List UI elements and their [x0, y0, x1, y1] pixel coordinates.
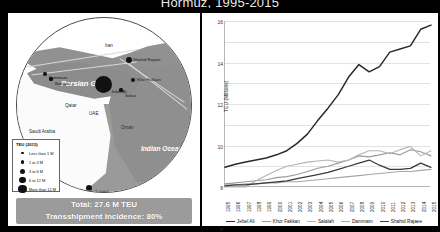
x-axis-tick-label: 2012 [401, 202, 406, 212]
y-axis-tick-label: 8 [220, 185, 223, 191]
x-axis-tick-label: 1999 [267, 202, 272, 212]
chart-legend-item-label: Jebel Ali [237, 219, 255, 224]
y-axis-label: TEU (Millions) [223, 81, 229, 112]
map-legend-item-label: 6 to 12 M [29, 178, 45, 183]
map-legend-title: TEU (2015) [16, 142, 56, 147]
x-axis-tick-label: 2011 [391, 202, 396, 212]
country-label: Iran [105, 44, 113, 49]
x-axis-tick-label: 2006 [339, 202, 344, 212]
map-legend-item: 6 to 12 M [16, 176, 56, 185]
x-axis-tick-label: 2004 [319, 202, 324, 212]
slide-root: Hormuz, 1995-2015 Persian GulfIndian Oce… [0, 0, 440, 231]
chart-legend-item: Jebel Ali [226, 219, 255, 224]
chart-panel: 246810121416 TEU (Millions) 199519961997… [202, 13, 438, 226]
x-axis-tick-label: 1996 [236, 202, 241, 212]
x-axis-tick-label: 2009 [370, 202, 375, 212]
slide-title: Hormuz, 1995-2015 [0, 0, 440, 8]
port-label: Sohar [125, 94, 136, 98]
port-label: Shahid Rajaee [133, 58, 160, 62]
country-label: Qatar [65, 104, 77, 109]
map-legend-item-label: 3 to 6 M [29, 169, 43, 174]
x-axis-tick-label: 1998 [257, 202, 262, 212]
y-axis-tick-label: 6 [220, 227, 223, 232]
x-axis-tick-label: 2015 [432, 202, 437, 212]
chart-legend-item: Khor Fakkan [262, 219, 300, 224]
legend-circle-icon [16, 169, 29, 174]
series-line [225, 169, 431, 185]
chart-legend-item: Salalah [307, 219, 334, 224]
map-legend-item: More than 12 M [16, 185, 56, 194]
x-axis-tick-label: 2013 [411, 202, 416, 212]
x-axis-tick-label: 1995 [226, 202, 231, 212]
map-legend: TEU (2015) Less than 1 M1 to 3 M3 to 6 M… [12, 139, 60, 192]
series-line [225, 160, 431, 186]
x-axis-tick-label: 2007 [350, 202, 355, 212]
legend-line-swatch [380, 221, 389, 222]
chart-legend-item-label: Dammam [352, 219, 373, 224]
port-label: Salalah [95, 190, 109, 193]
port-label: Khor Fakkan [137, 78, 161, 82]
port-marker [119, 88, 122, 91]
map-legend-item: 3 to 6 M [16, 167, 56, 176]
port-marker [95, 76, 112, 93]
port-marker [49, 77, 52, 80]
port-marker [126, 57, 132, 63]
country-label: UAE [89, 112, 98, 117]
chart-legend-item-label: Salalah [318, 219, 334, 224]
port-label: Bahrain [55, 82, 69, 86]
series-line [225, 25, 431, 167]
chart-legend-item: Dammam [341, 219, 373, 224]
country-label: Oman [121, 126, 134, 131]
legend-line-swatch [262, 221, 271, 222]
x-axis-tick-label: 1997 [247, 202, 252, 212]
legend-circle-icon [16, 160, 29, 164]
map-legend-item-label: More than 12 M [29, 187, 56, 192]
legend-circle-icon [16, 152, 29, 154]
map-legend-item-label: 1 to 3 M [29, 160, 43, 165]
series-lines [225, 21, 431, 187]
country-label: Saudi Arabia [29, 130, 55, 135]
legend-circle-icon [16, 185, 29, 194]
chart-legend-item-label: Shahid Rajaee [391, 219, 422, 224]
line-chart-plot-area: 246810121416 TEU (Millions) [224, 21, 430, 187]
legend-line-swatch [226, 221, 235, 222]
total-teu-text: Total: 27.6 M TEU [71, 199, 137, 211]
legend-line-swatch [341, 221, 350, 222]
map-legend-rows: Less than 1 M1 to 3 M3 to 6 M6 to 12 MMo… [16, 149, 56, 194]
legend-line-swatch [307, 221, 316, 222]
legend-circle-icon [16, 177, 29, 184]
port-marker [86, 185, 92, 191]
x-axis-tick-label: 2000 [278, 202, 283, 212]
water-label: Indian Ocean [141, 146, 182, 153]
map-legend-item-label: Less than 1 M [29, 151, 53, 156]
chart-legend: Jebel AliKhor FakkanSalalahDammamShahid … [210, 216, 438, 226]
transshipment-incidence-text: Transshipment Incidence: 80% [46, 211, 163, 223]
x-axis-tick-label: 2014 [422, 202, 427, 212]
x-axis-ticks: 1995199619971998199920002001200220032004… [224, 188, 430, 216]
x-axis-tick-label: 2010 [381, 202, 386, 212]
x-axis-tick-label: 2005 [329, 202, 334, 212]
summary-banner: Total: 27.6 M TEU Transshipment Incidenc… [16, 198, 192, 224]
x-axis-tick-label: 2008 [360, 202, 365, 212]
y-axis-tick-label: 16 [217, 19, 223, 25]
y-axis-tick-label: 10 [217, 144, 223, 150]
x-axis-tick-label: 2002 [298, 202, 303, 212]
map-legend-item: Less than 1 M [16, 149, 56, 158]
y-axis-tick-label: 14 [217, 61, 223, 67]
chart-legend-item: Shahid Rajaee [380, 219, 422, 224]
map-panel: Persian GulfIndian Ocean IranUAEOmanSaud… [8, 13, 200, 226]
chart-legend-item-label: Khor Fakkan [273, 219, 300, 224]
x-axis-tick-label: 2001 [288, 202, 293, 212]
map-legend-item: 1 to 3 M [16, 158, 56, 167]
x-axis-tick-label: 2003 [308, 202, 313, 212]
